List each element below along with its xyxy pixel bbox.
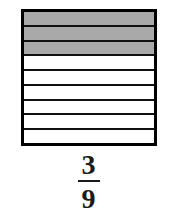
fraction-stack: 3 9	[78, 150, 100, 210]
band-9-unshaded	[24, 130, 154, 143]
band-5-unshaded	[24, 71, 154, 86]
fraction-label: 3 9	[0, 150, 177, 210]
fraction-denominator: 9	[78, 184, 100, 210]
band-7-unshaded	[24, 101, 154, 116]
fraction-numerator: 3	[78, 150, 100, 179]
band-2-shaded	[24, 27, 154, 42]
band-1-shaded	[24, 12, 154, 27]
partitioned-rectangle	[21, 9, 157, 146]
fraction-bar	[78, 180, 100, 182]
band-3-shaded	[24, 42, 154, 57]
fraction-model-figure: 3 9	[0, 0, 177, 210]
band-8-unshaded	[24, 115, 154, 130]
band-6-unshaded	[24, 86, 154, 101]
band-stack	[24, 12, 154, 143]
band-4-unshaded	[24, 56, 154, 71]
